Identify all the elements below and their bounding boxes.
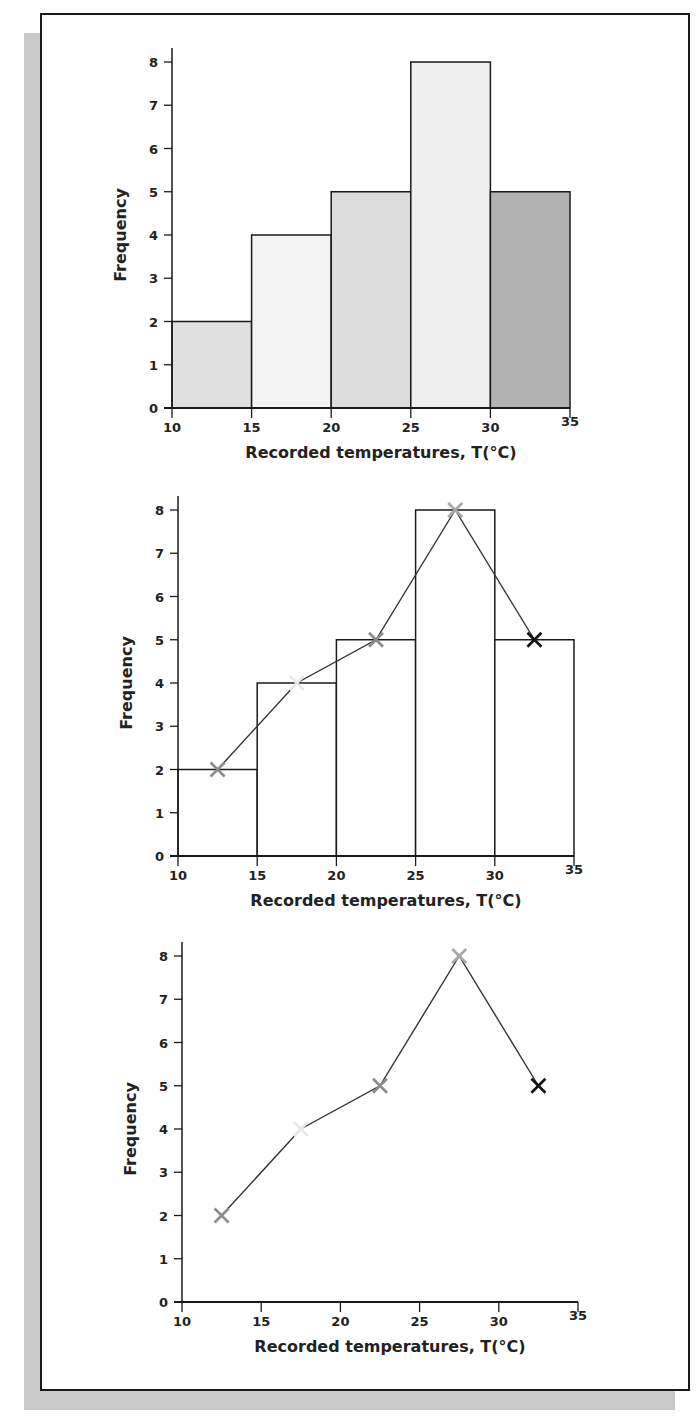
x-tick-label: 35 bbox=[569, 1308, 587, 1323]
x-marker-icon bbox=[215, 1209, 229, 1223]
x-tick-label: 15 bbox=[252, 1314, 270, 1329]
y-tick-label: 3 bbox=[159, 1165, 168, 1180]
x-tick-label: 10 bbox=[173, 1314, 191, 1329]
y-axis-title: Frequency bbox=[121, 1082, 140, 1176]
x-marker-icon bbox=[373, 1079, 387, 1093]
y-tick-label: 6 bbox=[159, 1036, 168, 1051]
y-tick-label: 8 bbox=[159, 949, 168, 964]
x-marker-icon bbox=[294, 1122, 308, 1136]
x-tick-label: 20 bbox=[331, 1314, 349, 1329]
y-tick-label: 2 bbox=[159, 1209, 168, 1224]
x-tick-label: 25 bbox=[411, 1314, 429, 1329]
y-tick-label: 4 bbox=[159, 1122, 168, 1137]
x-marker-icon bbox=[531, 1079, 545, 1093]
x-axis-title: Recorded temperatures, T(°C) bbox=[254, 1337, 525, 1356]
y-tick-label: 0 bbox=[159, 1295, 168, 1310]
x-marker-icon bbox=[452, 949, 466, 963]
frequency-polygon-chart: 012345678101520253035Recorded temperatur… bbox=[0, 0, 698, 1416]
y-tick-label: 5 bbox=[159, 1079, 168, 1094]
y-tick-label: 7 bbox=[159, 992, 168, 1007]
y-tick-label: 1 bbox=[159, 1252, 168, 1267]
x-tick-label: 30 bbox=[490, 1314, 508, 1329]
